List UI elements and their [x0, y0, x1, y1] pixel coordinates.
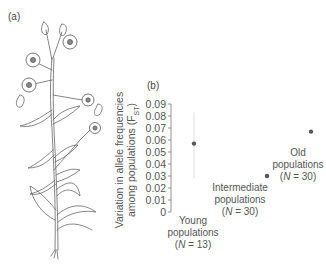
y-tick-label: 0.06 [136, 135, 166, 145]
category-label: Youngpopulations(N = 13) [167, 215, 218, 251]
category-label: Intermediatepopulations(N = 30) [212, 182, 268, 218]
y-tick-label: 0.07 [136, 123, 166, 133]
y-tick-label: 0.05 [136, 147, 166, 157]
data-point [265, 174, 269, 178]
y-tick-label: 0.09 [136, 99, 166, 109]
y-tick-label: 0.03 [136, 171, 166, 181]
y-tick-label: 0.04 [136, 159, 166, 169]
y-tick-label: 0.01 [136, 195, 166, 205]
y-tick-label: 0.02 [136, 183, 166, 193]
y-tick-label: 0 [136, 207, 166, 217]
y-tick-label: 0.08 [136, 111, 166, 121]
category-label: Oldpopulations(N = 30) [272, 147, 323, 183]
data-point [192, 141, 196, 145]
data-point [309, 129, 313, 133]
